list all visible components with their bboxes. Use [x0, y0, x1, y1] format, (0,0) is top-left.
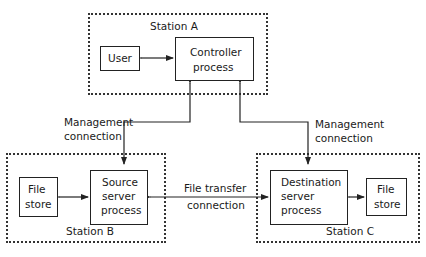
controller-process-box: Controller process [175, 37, 254, 81]
file-transfer-label-line2: connection [187, 198, 245, 212]
management-left-label-line2: connection [64, 129, 122, 143]
management-right-label-line2: connection [315, 131, 373, 145]
destination-server-line3: process [281, 203, 321, 217]
file-store-b-line2: store [25, 197, 52, 211]
file-store-b-line1: File [28, 182, 46, 196]
controller-label-line1: Controller [190, 45, 242, 59]
management-left-arrow [124, 83, 190, 164]
source-server-line3: process [101, 203, 141, 217]
source-server-line1: Source [102, 175, 138, 189]
file-transfer-label-line1: File transfer [184, 181, 246, 195]
user-box: User [100, 46, 140, 71]
management-right-label-line1: Management [315, 117, 384, 131]
destination-server-line2: server [281, 189, 314, 203]
controller-label-line2: process [193, 60, 233, 74]
destination-server-process-box: Destination server process [270, 170, 348, 225]
source-server-line2: server [102, 189, 135, 203]
file-store-c-box: File store [366, 178, 407, 216]
destination-server-line1: Destination [281, 175, 341, 189]
file-store-c-line2: store [374, 197, 401, 211]
file-store-b-box: File store [19, 177, 58, 217]
management-right-arrow [240, 83, 308, 164]
source-server-process-box: Source server process [90, 170, 148, 225]
file-store-c-line1: File [377, 182, 395, 196]
management-left-label-line1: Management [64, 115, 133, 129]
user-label: User [108, 51, 132, 65]
